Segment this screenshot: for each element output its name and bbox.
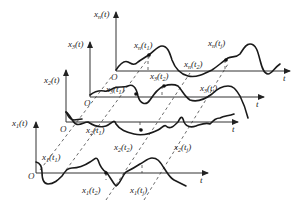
x1-tj-label: x1(tj) xyxy=(129,185,147,196)
xn-tj-label: xn(tj) xyxy=(207,38,225,49)
x2-origin-label: O xyxy=(60,124,67,134)
axis-labels: xn(t) x3(t) x2(t) x1(t) xyxy=(11,9,110,129)
xn-t-label: t xyxy=(283,73,286,83)
x3-axis-label: x3(t) xyxy=(67,39,84,50)
x3-t1-point xyxy=(162,84,166,88)
xn-t2-label: xn(t2) xyxy=(183,59,203,70)
x3-t2-label: x3(t2) xyxy=(149,71,169,82)
x3-t-label: t xyxy=(256,99,259,109)
xn-t1-point xyxy=(147,53,151,57)
xn-tj-point xyxy=(224,58,228,62)
x2-t2-label: x2(t2) xyxy=(113,142,133,153)
x1-t1-label: x1(t1) xyxy=(41,152,61,163)
x1-t-label: t xyxy=(200,175,203,185)
x2-t2-point xyxy=(139,128,143,132)
x3-t1-label: x3(t1) xyxy=(105,84,125,95)
x3-t2-point xyxy=(134,92,138,96)
xn-axis-label: xn(t) xyxy=(93,9,110,20)
x1-origin-label: O xyxy=(28,171,35,181)
x2-t1-label: x2(t1) xyxy=(85,125,105,136)
x1-axis-label: x1(t) xyxy=(11,118,28,129)
random-process-ensemble-diagram: xn(t) x3(t) x2(t) x1(t) O O O O t t t t … xyxy=(0,0,294,205)
x1-t2-label: x1(t2) xyxy=(81,185,101,196)
x2-tj-label: x2(tj) xyxy=(173,142,191,153)
x1-sample-curve xyxy=(36,158,186,186)
x3-origin-label: O xyxy=(84,98,91,108)
x1-t2-point xyxy=(104,171,108,175)
xn-origin-label: O xyxy=(111,72,118,82)
x2-t-label: t xyxy=(232,124,235,134)
x2-axis-label: x2(t) xyxy=(43,75,60,86)
x3-tj-label: x3(tj) xyxy=(199,83,217,94)
xn-t1-label: xn(t1) xyxy=(133,40,153,51)
